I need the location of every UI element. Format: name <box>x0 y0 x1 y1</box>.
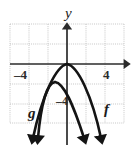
curve-label-f: f <box>104 102 109 117</box>
curve-label-g: g <box>28 106 36 121</box>
x-tick-label-negative-four: –4 <box>14 68 27 81</box>
y-tick-label-negative-four: –4 <box>56 95 68 107</box>
parabola-graph-figure: y –4 4 –4 g f <box>0 0 137 147</box>
axes <box>10 27 126 145</box>
x-tick-label-positive-four: 4 <box>103 68 110 81</box>
curve-g <box>38 82 84 138</box>
y-axis-label: y <box>65 6 72 21</box>
